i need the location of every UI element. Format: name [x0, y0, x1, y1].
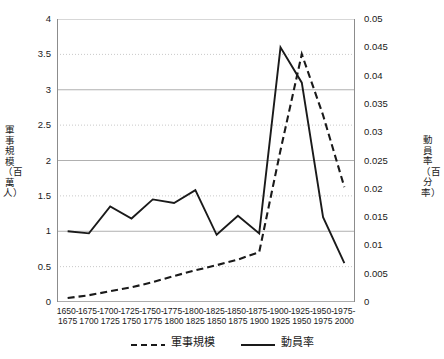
y-axis-right-tick-label: 0.01 [364, 239, 404, 250]
y-axis-right-tick-label: 0.025 [364, 155, 404, 166]
y-axis-right-tick-label: 0.04 [364, 70, 404, 81]
legend-label: 動員率 [281, 333, 314, 349]
y-axis-left-tick-label: 1.5 [21, 190, 51, 201]
series-line-mobilization-rate [68, 47, 345, 263]
y-axis-left-tick-label: 2.5 [21, 119, 51, 130]
y-axis-right-tick-label: 0 [364, 296, 404, 307]
y-axis-right-tick-label: 0.05 [364, 13, 404, 24]
y-axis-left-tick-label: 1 [21, 225, 51, 236]
legend-item[interactable]: 軍事規模 [131, 333, 215, 349]
legend-item[interactable]: 動員率 [241, 333, 314, 349]
chart-legend: 軍事規模動員率 [0, 333, 444, 349]
series-lines [68, 47, 345, 298]
plot-svg [57, 19, 355, 302]
gridlines [57, 19, 355, 302]
plot-area [57, 19, 355, 302]
y-axis-left-tick-label: 4 [21, 13, 51, 24]
y-axis-left-tick-label: 3 [21, 84, 51, 95]
y-axis-left-tick-label: 0 [21, 296, 51, 307]
x-axis-tick-label: 1975-2000 [329, 306, 359, 326]
legend-label: 軍事規模 [171, 333, 215, 349]
y-axis-right-tick-label: 0.03 [364, 126, 404, 137]
y-axis-right-tick-label: 0.02 [364, 183, 404, 194]
y-axis-right-title: 動員率（百分率） [421, 135, 434, 198]
y-axis-right-tick-label: 0.005 [364, 268, 404, 279]
y-axis-right-tick-label: 0.015 [364, 211, 404, 222]
y-axis-left-tick-label: 0.5 [21, 261, 51, 272]
chart-container: 軍事規模（百萬人） 動員率（百分率） 00.511.522.533.54 00.… [0, 0, 444, 359]
y-axis-left-tick-label: 3.5 [21, 48, 51, 59]
legend-solid-line-icon [241, 336, 275, 346]
legend-dashed-line-icon [131, 336, 165, 346]
y-axis-right-tick-label: 0.035 [364, 98, 404, 109]
y-axis-left-tick-label: 2 [21, 155, 51, 166]
y-axis-right-tick-label: 0.045 [364, 41, 404, 52]
y-axis-left-title: 軍事規模（百萬人） [3, 125, 16, 199]
